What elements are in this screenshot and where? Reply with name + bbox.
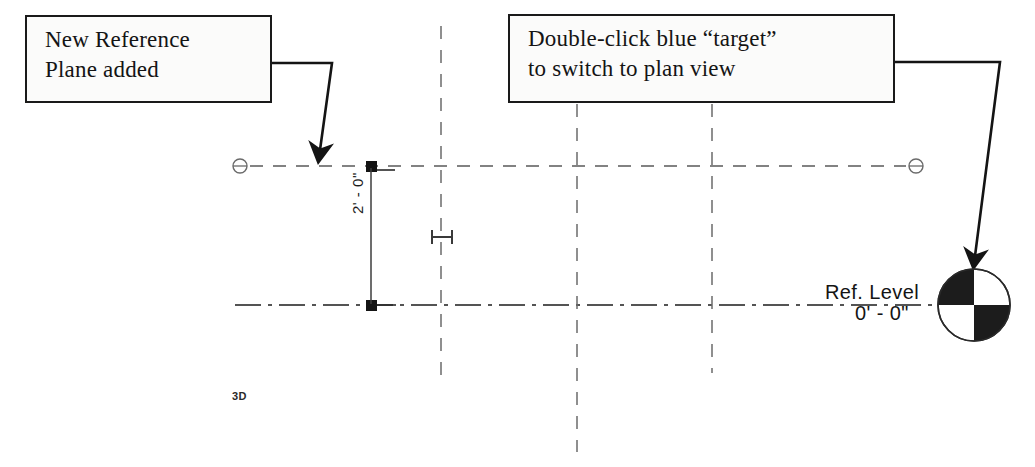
drawing-canvas: New Reference Plane added Double-click b…: [0, 0, 1035, 467]
leader-line-reference-plane: [272, 63, 332, 150]
plan-view-target[interactable]: [938, 269, 1010, 341]
reference-plane-upper[interactable]: [233, 159, 923, 173]
double-click-target-callout: Double-click blue “target” to switch to …: [508, 14, 895, 103]
view-name-tag: 3D: [232, 390, 247, 402]
callout-line: to switch to plan view: [528, 54, 893, 84]
leader-arrow-icon-2: [895, 62, 1000, 256]
dimension-value-label[interactable]: 2' - 0": [349, 172, 366, 214]
callout-line: New Reference: [45, 25, 270, 55]
callout-line: Double-click blue “target”: [528, 24, 893, 54]
callout-line: Plane added: [45, 55, 270, 85]
level-name-label[interactable]: Ref. Level: [825, 281, 919, 304]
dimension-flip-icon[interactable]: [432, 230, 452, 244]
leader-arrow-icon-1: [272, 63, 332, 150]
level-elevation-label[interactable]: 0' - 0": [855, 302, 909, 325]
new-reference-plane-callout: New Reference Plane added: [25, 15, 272, 103]
leader-line-target: [895, 62, 1000, 256]
